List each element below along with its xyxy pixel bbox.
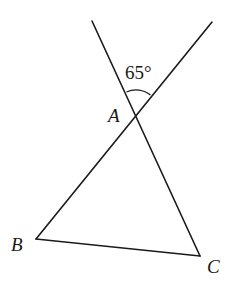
vertex-label-c: C bbox=[207, 256, 220, 277]
segment-bc bbox=[36, 239, 200, 256]
vertex-label-a: A bbox=[106, 105, 120, 126]
angle-arc bbox=[127, 90, 151, 95]
vertex-label-b: B bbox=[11, 234, 23, 255]
angle-label: 65° bbox=[125, 62, 152, 83]
triangle-diagram: 65° A B C bbox=[0, 0, 242, 281]
line-ba-extended bbox=[36, 22, 212, 239]
